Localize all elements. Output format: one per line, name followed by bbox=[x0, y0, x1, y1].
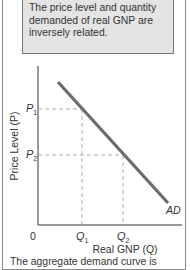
caption-text: The aggregate demand curve is bbox=[10, 256, 157, 267]
y-axis-title: Price Level (P) bbox=[8, 112, 20, 181]
p1-label: P1 bbox=[26, 102, 37, 116]
ad-curve bbox=[58, 82, 168, 203]
origin-label: 0 bbox=[30, 230, 36, 242]
q2-label: Q2 bbox=[117, 230, 130, 244]
q1-label: Q1 bbox=[76, 230, 89, 244]
ad-label: AD bbox=[165, 204, 181, 216]
x-axis-title: Real GNP (Q) bbox=[92, 243, 157, 255]
p2-label: P2 bbox=[26, 148, 37, 162]
